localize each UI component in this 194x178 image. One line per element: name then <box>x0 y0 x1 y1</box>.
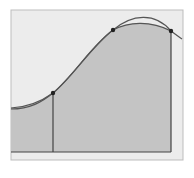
point-2 <box>111 28 115 32</box>
point-3 <box>169 29 173 33</box>
diagram-canvas <box>0 0 194 178</box>
point-1 <box>51 91 55 95</box>
